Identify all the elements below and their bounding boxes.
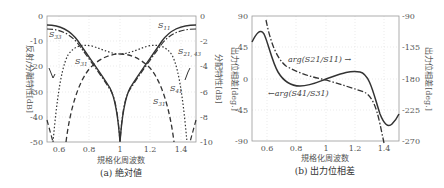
svg-text:0.8: 0.8 bbox=[83, 145, 96, 154]
label-s41: S41 bbox=[170, 84, 182, 94]
label-arg-s41-s31: ←arg(S41/S31) bbox=[268, 89, 329, 98]
panel-b-left-y-label: 出力位相差[deg.] bbox=[230, 47, 240, 111]
panel-b: 90 45 0 -45 -90 -90 -135 -180 -225 -270 … bbox=[230, 12, 434, 176]
svg-text:-90: -90 bbox=[235, 137, 248, 146]
svg-text:1: 1 bbox=[117, 145, 122, 154]
svg-text:1.4: 1.4 bbox=[175, 145, 188, 154]
panel-b-x-ticks: 0.6 0.8 1 1.2 1.4 bbox=[261, 144, 391, 153]
svg-text:0: 0 bbox=[200, 12, 205, 21]
figure: 0 -10 -20 -30 -40 -50 0 -2 -4 -6 -8 -10 … bbox=[0, 0, 444, 188]
label-arg-s21-s11: arg(S21/S11) → bbox=[288, 55, 352, 64]
label-s11: S11 bbox=[158, 21, 170, 31]
svg-text:-135: -135 bbox=[402, 43, 420, 52]
panel-a: 0 -10 -20 -30 -40 -50 0 -2 -4 -6 -8 -10 … bbox=[25, 12, 224, 178]
svg-text:1.2: 1.2 bbox=[349, 144, 362, 153]
panel-b-right-y-ticks: -90 -135 -180 -225 -270 bbox=[402, 12, 420, 146]
panel-b-caption: (b) 出力位相差 bbox=[295, 165, 356, 176]
panel-a-right-y-ticks: 0 -2 -4 -6 -8 -10 bbox=[200, 12, 213, 147]
svg-text:-40: -40 bbox=[30, 113, 43, 122]
svg-text:-4: -4 bbox=[200, 62, 208, 71]
svg-text:1.2: 1.2 bbox=[144, 145, 157, 154]
panel-a-right-y-label: 分配特性[dB] bbox=[214, 54, 224, 103]
panel-b-right-y-label: 出力位相差[deg.] bbox=[424, 47, 434, 111]
svg-text:0.6: 0.6 bbox=[53, 145, 66, 154]
svg-text:90: 90 bbox=[238, 12, 248, 21]
label-s31-left: S31 bbox=[75, 57, 87, 67]
svg-text:1.4: 1.4 bbox=[378, 144, 391, 153]
curve-s41-right bbox=[185, 68, 190, 80]
svg-text:-90: -90 bbox=[402, 12, 415, 21]
panel-a-x-ticks: 0.6 0.8 1 1.2 1.4 bbox=[53, 145, 188, 154]
svg-text:-6: -6 bbox=[200, 88, 208, 97]
label-s31-right: S31 bbox=[153, 97, 165, 107]
curve-s21-edge-right bbox=[190, 120, 196, 142]
svg-text:1: 1 bbox=[323, 144, 328, 153]
svg-text:0: 0 bbox=[243, 75, 248, 84]
svg-text:0: 0 bbox=[38, 12, 43, 21]
svg-text:-225: -225 bbox=[402, 106, 420, 115]
curve-s41-left bbox=[49, 68, 55, 78]
panel-a-x-label: 規格化周波数 bbox=[97, 155, 145, 165]
svg-text:-180: -180 bbox=[402, 75, 420, 84]
panel-a-left-y-label: 反射/分離特性[dB] bbox=[25, 45, 35, 113]
curve-s21-edge-left bbox=[47, 120, 53, 142]
panel-a-caption: (a) 絶対値 bbox=[100, 167, 142, 178]
svg-text:0.8: 0.8 bbox=[290, 144, 303, 153]
curve-arg-s41-s31 bbox=[252, 32, 399, 126]
svg-text:0.6: 0.6 bbox=[261, 144, 274, 153]
label-s21-s43-right: S21, 43 bbox=[178, 47, 201, 57]
svg-text:-8: -8 bbox=[200, 113, 208, 122]
svg-text:-10: -10 bbox=[200, 138, 213, 147]
svg-text:-270: -270 bbox=[402, 137, 420, 146]
panel-b-curves bbox=[252, 20, 399, 143]
svg-text:-50: -50 bbox=[30, 138, 43, 147]
svg-text:-2: -2 bbox=[200, 37, 208, 46]
curve-arg-s21-s11 bbox=[266, 20, 384, 143]
panel-b-x-label: 規格化周波数 bbox=[301, 153, 349, 163]
